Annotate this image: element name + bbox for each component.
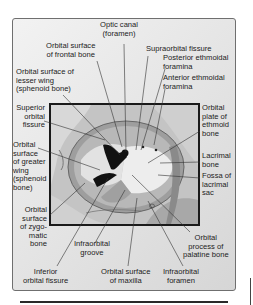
label-orbital-process-palatine-bone: Orbital process of palatine bone xyxy=(183,234,229,260)
label-orbital-surface-frontal-bone: Orbital surface of frontal bone xyxy=(46,42,95,59)
label-fossa-lacrimal-sac: Fossa of lacrimal sac xyxy=(202,172,231,198)
label-superior-orbital-fissure: Superior orbital fissure xyxy=(12,104,45,130)
label-orbital-surface-zygomatic-bone: Orbital surface of zygo- matic bone xyxy=(12,206,47,249)
divider-rule xyxy=(20,301,228,303)
label-infraorbital-foramen: Infraorbital foramen xyxy=(163,268,199,285)
label-optic-canal: Optic canal (foramen) xyxy=(100,21,138,38)
label-orbital-surface-greater-wing: Orbital surface of greater wing (sphenoi… xyxy=(13,141,46,193)
label-infraorbital-groove: Infraorbital groove xyxy=(74,240,110,257)
label-orbital-plate-ethmoid-bone: Orbital plate of ethmoid bone xyxy=(202,104,229,138)
page-edge-line xyxy=(250,278,251,305)
orbit-illustration xyxy=(49,103,200,226)
label-anterior-ethmoidal-foramina: Anterior ethmoidal foramina xyxy=(163,74,225,91)
label-orbital-surface-lesser-wing: Orbital surface of lesser wing (sphenoid… xyxy=(16,68,74,94)
orbit-drawing xyxy=(51,105,198,224)
label-lacrimal-bone: Lacrimal bone xyxy=(202,152,231,169)
label-posterior-ethmoidal-foramina: Posterior ethmoidal foramina xyxy=(163,54,228,71)
label-orbital-surface-maxilla: Orbital surface of maxilla xyxy=(101,268,150,285)
label-inferior-orbital-fissure: Inferior orbital fissure xyxy=(23,268,68,285)
